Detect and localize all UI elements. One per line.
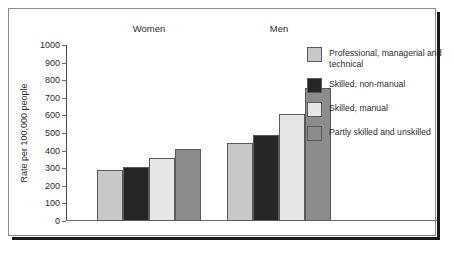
y-axis-tick: [62, 45, 66, 46]
y-axis-tick-label: 500: [45, 129, 60, 138]
y-axis-tick: [62, 115, 66, 116]
y-axis-title-label: Rate per 100,000 people: [19, 83, 29, 182]
bar: [97, 170, 123, 221]
y-axis-tick: [62, 63, 66, 64]
y-axis-tick-label: 300: [45, 164, 60, 173]
legend-item[interactable]: Partly skilled and unskilled: [307, 126, 454, 141]
legend-item-label: Skilled, manual: [329, 102, 388, 114]
y-axis-title: Rate per 100,000 people: [17, 45, 31, 221]
y-axis-line: [66, 45, 67, 221]
legend-swatch-icon: [307, 78, 322, 93]
y-axis-tick-label: 100: [45, 199, 60, 208]
legend-swatch-icon: [307, 126, 322, 141]
bar: [227, 143, 253, 221]
y-axis-tick: [62, 168, 66, 169]
y-axis-tick-label: 600: [45, 111, 60, 120]
y-axis-tick: [62, 221, 66, 222]
bar: [253, 135, 279, 221]
y-axis-tick-label: 1000: [40, 41, 60, 50]
legend-swatch-icon: [307, 102, 322, 117]
bar: [149, 158, 175, 221]
bar: [279, 114, 305, 221]
group-label-women: Women: [133, 23, 166, 34]
legend-item-label: Professional, managerial and technical: [329, 47, 454, 69]
y-axis-tick: [62, 80, 66, 81]
y-axis-tick-label: 800: [45, 76, 60, 85]
y-axis-tick-label: 200: [45, 181, 60, 190]
y-axis-tick: [62, 133, 66, 134]
y-axis-tick: [62, 151, 66, 152]
y-axis-tick-label: 0: [55, 217, 60, 226]
y-axis-tick: [62, 186, 66, 187]
y-axis-tick: [62, 203, 66, 204]
y-axis-tick-label: 400: [45, 146, 60, 155]
y-axis-tick-label: 700: [45, 93, 60, 102]
legend-item[interactable]: Professional, managerial and technical: [307, 47, 454, 69]
legend-item-label: Partly skilled and unskilled: [329, 126, 431, 138]
y-axis-tick: [62, 98, 66, 99]
group-label-men: Men: [270, 23, 288, 34]
y-axis-tick-label: 900: [45, 58, 60, 67]
chart-panel: Rate per 100,000 people 0100200300400500…: [8, 8, 436, 236]
bar: [123, 167, 149, 221]
legend-item[interactable]: Skilled, non-manual: [307, 78, 454, 93]
legend-item[interactable]: Skilled, manual: [307, 102, 454, 117]
legend-swatch-icon: [307, 47, 322, 62]
legend-item-label: Skilled, non-manual: [329, 78, 405, 90]
panel-shadow-bottom: [12, 237, 440, 240]
chart-legend: Professional, managerial and technicalSk…: [307, 47, 454, 150]
panel-shadow-right: [437, 12, 440, 240]
bar: [175, 149, 201, 221]
